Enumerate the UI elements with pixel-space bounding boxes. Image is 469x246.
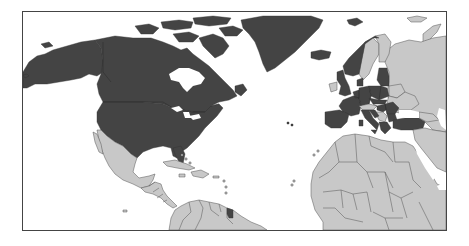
territory-svalbard	[347, 18, 363, 26]
legend-nonmember-label: Non-member	[23, 12, 129, 16]
country-ireland[interactable]	[329, 82, 337, 92]
region-africa-middle-east	[287, 122, 446, 230]
islands-azores	[287, 122, 293, 126]
country-poland[interactable]	[369, 86, 389, 100]
country-iceland[interactable]	[311, 50, 331, 60]
islands-cape-verde	[291, 180, 295, 186]
territory-franz-josef-land	[407, 16, 427, 22]
region-europe	[325, 34, 446, 134]
world-map[interactable]: Member Non-member	[23, 12, 446, 230]
country-denmark[interactable]	[357, 78, 363, 86]
region-north-america-members	[23, 16, 247, 164]
island-puerto-rico	[213, 176, 219, 178]
territory-greenland[interactable]	[241, 16, 323, 72]
country-spain-portugal[interactable]	[325, 110, 349, 128]
islands-lesser-antilles	[223, 180, 227, 194]
island-newfoundland	[235, 84, 247, 96]
country-usa-alaska[interactable]	[23, 40, 103, 88]
island-cuba	[163, 160, 195, 170]
island-hispaniola	[191, 170, 209, 178]
country-turkey[interactable]	[393, 118, 425, 130]
country-albania-greece[interactable]	[379, 122, 391, 134]
legend: Member Non-member	[23, 12, 129, 16]
island-jamaica	[179, 174, 185, 177]
islands-canary	[313, 150, 319, 156]
region-south-america	[169, 200, 267, 230]
islands-galapagos	[123, 210, 127, 212]
map-frame: Member Non-member	[22, 11, 447, 231]
country-estonia-latvia-lithuania[interactable]	[377, 68, 389, 86]
